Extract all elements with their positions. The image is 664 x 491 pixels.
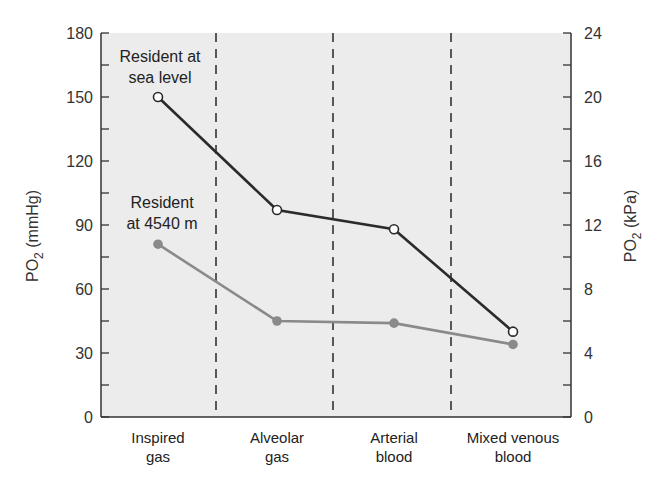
category-label: Alveolar — [250, 429, 304, 446]
data-point-open-circle — [390, 225, 399, 234]
left-tick-label: 30 — [75, 345, 93, 362]
category-label: Arterial — [370, 429, 418, 446]
category-label: blood — [495, 448, 532, 465]
data-point-filled-circle — [389, 318, 399, 328]
right-tick-label: 8 — [584, 281, 593, 298]
left-tick-label: 90 — [75, 217, 93, 234]
series-annotation: sea level — [128, 69, 191, 86]
right-tick-label: 12 — [584, 217, 602, 234]
left-tick-label: 60 — [75, 281, 93, 298]
data-point-open-circle — [273, 206, 282, 215]
right-tick-label: 4 — [584, 345, 593, 362]
left-tick-label: 180 — [66, 25, 93, 42]
category-label: Inspired — [131, 429, 184, 446]
category-label: gas — [146, 448, 170, 465]
series-annotation: Resident — [130, 194, 194, 211]
right-axis-title: PO2 (kPa) — [622, 190, 644, 262]
data-point-open-circle — [509, 327, 518, 336]
left-tick-label: 0 — [84, 409, 93, 426]
series-annotation: Resident at — [120, 48, 201, 65]
data-point-open-circle — [154, 93, 163, 102]
data-point-filled-circle — [153, 239, 163, 249]
category-label: blood — [376, 448, 413, 465]
category-label: Mixed venous — [467, 429, 560, 446]
right-tick-label: 16 — [584, 153, 602, 170]
left-axis-title: PO2 (mmHg) — [24, 190, 46, 282]
data-point-filled-circle — [272, 316, 282, 326]
left-tick-label: 120 — [66, 153, 93, 170]
category-label: gas — [265, 448, 289, 465]
right-tick-label: 24 — [584, 25, 602, 42]
left-tick-label: 150 — [66, 89, 93, 106]
right-tick-label: 0 — [584, 409, 593, 426]
po2-line-chart: 030609012015018004812162024InspiredgasAl… — [0, 0, 664, 491]
data-point-filled-circle — [508, 340, 518, 350]
right-tick-label: 20 — [584, 89, 602, 106]
series-annotation: at 4540 m — [126, 215, 197, 232]
